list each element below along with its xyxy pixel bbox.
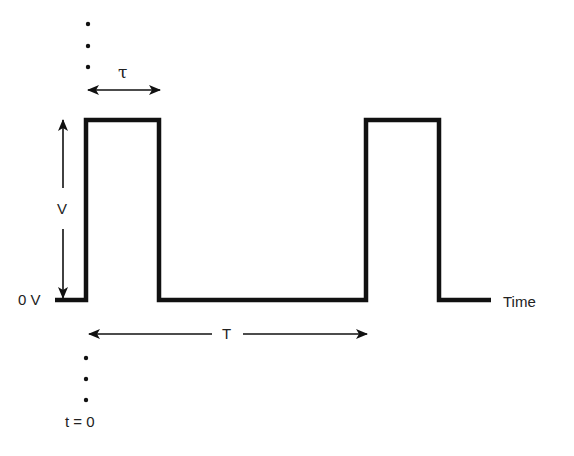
pulse-waveform-line	[55, 120, 491, 300]
ellipsis-dots-top	[86, 22, 90, 69]
pulse-waveform-diagram: τ V 0 V T Time t = 0	[0, 0, 574, 456]
waveform-canvas	[0, 0, 574, 456]
period-label: T	[222, 326, 231, 341]
amplitude-label: V	[57, 201, 67, 216]
time-axis-label: Time	[503, 294, 536, 309]
time-origin-label: t = 0	[65, 414, 95, 429]
baseline-label: 0 V	[18, 292, 41, 307]
ellipsis-dots-bottom	[84, 356, 88, 402]
pulse-width-label: τ	[118, 64, 127, 81]
